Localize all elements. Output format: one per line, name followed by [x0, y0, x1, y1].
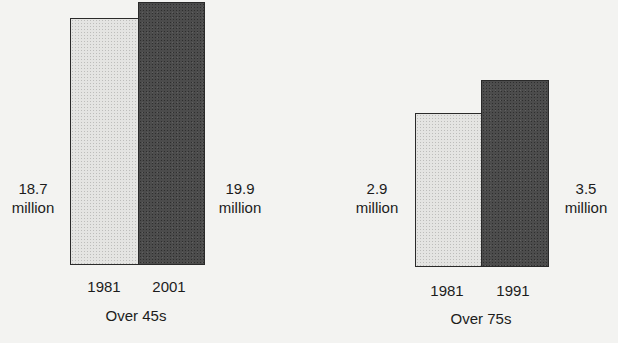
value-label-over45-2001: 19.9 million	[200, 179, 280, 217]
value-number: 18.7	[0, 179, 73, 198]
category-label-2001: 2001	[139, 277, 199, 296]
value-unit: million	[337, 198, 417, 217]
group-label-over-75s: Over 75s	[411, 309, 551, 328]
category-label-1991: 1991	[483, 281, 543, 300]
bar-over75-1981	[415, 113, 482, 267]
value-unit: million	[0, 198, 73, 217]
category-label-1981: 1981	[74, 277, 134, 296]
value-unit: million	[546, 198, 618, 217]
group-label-over-45s: Over 45s	[66, 306, 206, 325]
bar-chart-figure: 18.7 million 19.9 million 1981 2001 Over…	[0, 0, 618, 343]
bar-over75-1991	[481, 80, 549, 267]
value-number: 19.9	[200, 179, 280, 198]
bar-over45-2001	[138, 2, 205, 265]
value-label-over75-1981: 2.9 million	[337, 179, 417, 217]
category-label-1981: 1981	[417, 281, 477, 300]
value-label-over45-1981: 18.7 million	[0, 179, 73, 217]
bar-over45-1981	[70, 18, 139, 265]
value-number: 3.5	[546, 179, 618, 198]
value-label-over75-1991: 3.5 million	[546, 179, 618, 217]
value-unit: million	[200, 198, 280, 217]
value-number: 2.9	[337, 179, 417, 198]
